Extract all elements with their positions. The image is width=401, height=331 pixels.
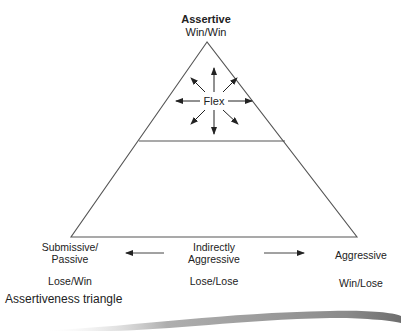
indirectly-aggressive-line2: Aggressive (174, 253, 254, 265)
assertiveness-triangle-diagram: Assertive Win/Win Flex Submissive/ Passi… (0, 0, 401, 331)
figure-caption: Assertiveness triangle (5, 292, 122, 306)
submissive-label-line2: Passive (30, 253, 110, 265)
page-curl-shadow (40, 311, 401, 331)
indirectly-aggressive-line1: Indirectly (174, 241, 254, 253)
indirectly-aggressive-outcome: Lose/Lose (174, 275, 254, 287)
submissive-outcome: Lose/Win (30, 275, 110, 287)
aggressive-label: Aggressive (321, 249, 401, 261)
apex-heading: Assertive (166, 13, 246, 25)
submissive-label-line1: Submissive/ (30, 241, 110, 253)
aggressive-outcome: Win/Lose (321, 277, 401, 289)
flex-label: Flex (194, 95, 234, 107)
apex-outcome: Win/Win (166, 26, 246, 38)
